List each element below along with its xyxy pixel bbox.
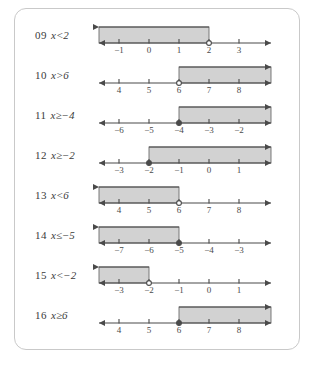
tick-label: 6 (177, 325, 182, 335)
tick-label: 5 (147, 85, 152, 95)
item-number: 14 (35, 229, 47, 241)
inequality-label: 15x<−2 (35, 269, 76, 281)
answer-panel: 09x<2−1012310x>64567811x≥−4−6−5−4−3−212x… (14, 8, 300, 350)
tick-label: 8 (237, 85, 242, 95)
tick-label: 0 (207, 285, 212, 295)
tick-label: 8 (237, 325, 242, 335)
tick-label: −5 (144, 125, 154, 135)
inequality-expression: x≥−2 (51, 149, 75, 161)
tick-label: 7 (207, 325, 212, 335)
inequality-row: 09x<2−10123 (15, 21, 299, 61)
tick-label: −2 (144, 285, 154, 295)
tick-label-row: −3−2−101 (89, 165, 281, 177)
number-line-graph: −7−6−5−4−3 (89, 221, 281, 261)
number-line-graph: 45678 (89, 301, 281, 341)
item-number: 13 (35, 189, 47, 201)
number-line-graph: 45678 (89, 181, 281, 221)
tick-label: −2 (144, 165, 154, 175)
inequality-label: 16x≥6 (35, 309, 67, 321)
tick-label: 2 (207, 45, 212, 55)
item-number: 09 (35, 29, 47, 41)
tick-label: 6 (177, 85, 182, 95)
tick-label-row: 45678 (89, 85, 281, 97)
tick-label: 1 (237, 285, 242, 295)
tick-label: 7 (207, 205, 212, 215)
tick-label: −6 (144, 245, 154, 255)
inequality-expression: x<−2 (51, 269, 76, 281)
tick-label-row: 45678 (89, 325, 281, 337)
inequality-row: 10x>645678 (15, 61, 299, 101)
tick-label-row: −7−6−5−4−3 (89, 245, 281, 257)
tick-label: 4 (117, 325, 122, 335)
inequality-row: 15x<−2−3−2−101 (15, 261, 299, 301)
tick-label: −2 (234, 125, 244, 135)
inequality-label: 11x≥−4 (35, 109, 74, 121)
tick-label-row: 45678 (89, 205, 281, 217)
tick-label: 4 (117, 85, 122, 95)
tick-label: 8 (237, 205, 242, 215)
inequality-label: 09x<2 (35, 29, 69, 41)
tick-label: 7 (207, 85, 212, 95)
tick-label: 5 (147, 205, 152, 215)
number-line-graph: −6−5−4−3−2 (89, 101, 281, 141)
tick-label-row: −3−2−101 (89, 285, 281, 297)
tick-label-row: −10123 (89, 45, 281, 57)
number-line-graph: −10123 (89, 21, 281, 61)
tick-label: 5 (147, 325, 152, 335)
inequality-label: 10x>6 (35, 69, 69, 81)
tick-label: 3 (237, 45, 242, 55)
item-number: 16 (35, 309, 47, 321)
tick-label: −6 (114, 125, 124, 135)
number-line-graph: −3−2−101 (89, 141, 281, 181)
inequality-expression: x>6 (51, 69, 69, 81)
inequality-row: 13x<645678 (15, 181, 299, 221)
inequality-label: 12x≥−2 (35, 149, 75, 161)
tick-label: −3 (204, 125, 214, 135)
tick-label: 0 (147, 45, 152, 55)
tick-label: 6 (177, 205, 182, 215)
inequality-expression: x≤−5 (51, 229, 75, 241)
inequality-row: 16x≥645678 (15, 301, 299, 341)
number-line-graph: 45678 (89, 61, 281, 101)
inequality-row: 14x≤−5−7−6−5−4−3 (15, 221, 299, 261)
item-number: 11 (35, 109, 47, 121)
inequality-label: 13x<6 (35, 189, 69, 201)
tick-label: −4 (204, 245, 214, 255)
tick-label: −3 (114, 165, 124, 175)
inequality-row: 12x≥−2−3−2−101 (15, 141, 299, 181)
tick-label: −5 (174, 245, 184, 255)
tick-label: 4 (117, 205, 122, 215)
tick-label: −1 (114, 45, 124, 55)
inequality-expression: x≥6 (51, 309, 67, 321)
inequality-expression: x<6 (51, 189, 69, 201)
inequality-expression: x≥−4 (51, 109, 75, 121)
tick-label: 1 (237, 165, 242, 175)
tick-label: −7 (114, 245, 124, 255)
item-number: 12 (35, 149, 47, 161)
tick-label-row: −6−5−4−3−2 (89, 125, 281, 137)
inequality-label: 14x≤−5 (35, 229, 75, 241)
inequality-row: 11x≥−4−6−5−4−3−2 (15, 101, 299, 141)
tick-label: −1 (174, 285, 184, 295)
tick-label: 0 (207, 165, 212, 175)
tick-label: −4 (174, 125, 184, 135)
number-line-graph: −3−2−101 (89, 261, 281, 301)
item-number: 15 (35, 269, 47, 281)
tick-label: −1 (174, 165, 184, 175)
inequality-expression: x<2 (51, 29, 69, 41)
item-number: 10 (35, 69, 47, 81)
tick-label: −3 (114, 285, 124, 295)
tick-label: −3 (234, 245, 244, 255)
tick-label: 1 (177, 45, 182, 55)
